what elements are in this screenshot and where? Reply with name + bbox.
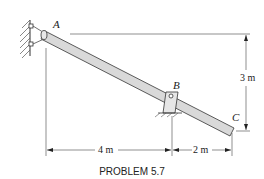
label-a: A — [52, 18, 60, 30]
collar-a — [41, 31, 47, 40]
bar-abc — [41, 31, 234, 137]
dimension-horizontal: 4 m 2 m — [47, 144, 231, 155]
problem-diagram: 3 m 4 m 2 m A B C PROBLEM 5.7 — [0, 0, 264, 179]
dim-bc-label: 2 m — [193, 144, 209, 155]
figure-caption: PROBLEM 5.7 — [99, 166, 165, 177]
label-b: B — [173, 79, 180, 91]
dim-vertical-label: 3 m — [240, 72, 256, 83]
dimension-vertical: 3 m — [240, 35, 256, 130]
label-c: C — [232, 111, 240, 123]
wall — [20, 20, 30, 58]
dim-ab-label: 4 m — [98, 144, 114, 155]
